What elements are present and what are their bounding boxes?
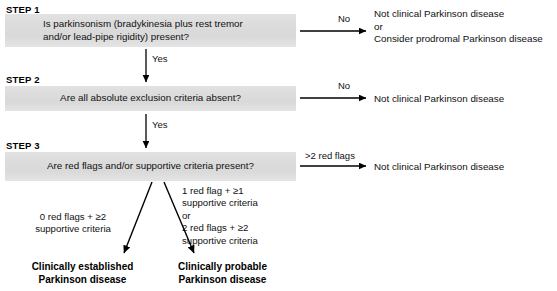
step-3-no-label: >2 red flags [305, 150, 355, 162]
branch-right-condition: 1 red flag + ≥1supportive criteria or2 r… [182, 185, 258, 247]
result-clinically-established: Clinically establishedParkinson disease [15, 261, 150, 287]
step-2-label: STEP 2 [6, 74, 40, 85]
step-2-no-outcome: Not clinical Parkinson disease [374, 93, 504, 106]
step-2-no-label: No [338, 80, 350, 92]
step-1-question-box: Is parkinsonism (bradykinesia plus rest … [5, 14, 296, 47]
step-3-label: STEP 3 [6, 140, 40, 151]
branch-left-condition: 0 red flags + ≥2supportive criteria [18, 211, 128, 236]
flowchart-diagram: STEP 1 Is parkinsonism (bradykinesia plu… [0, 0, 557, 291]
step-2-question-text: Are all absolute exclusion criteria abse… [5, 92, 296, 105]
result-clinically-probable: Clinically probableParkinson disease [160, 261, 285, 287]
step-2-yes-label: Yes [152, 119, 168, 131]
step-3-no-outcome: Not clinical Parkinson disease [374, 161, 504, 174]
step-1-yes-label: Yes [152, 53, 168, 65]
step-1-no-label: No [338, 13, 350, 25]
step-2-question-box: Are all absolute exclusion criteria abse… [5, 86, 296, 111]
step-3-question-text: Are red flags and/or supportive criteria… [5, 160, 296, 173]
step-3-question-box: Are red flags and/or supportive criteria… [5, 152, 296, 181]
arrow-branch-left [124, 182, 152, 253]
step-1-question-text: Is parkinsonism (bradykinesia plus rest … [5, 18, 296, 43]
step-1-no-outcome: Not clinical Parkinson diseaseorConsider… [374, 8, 543, 46]
